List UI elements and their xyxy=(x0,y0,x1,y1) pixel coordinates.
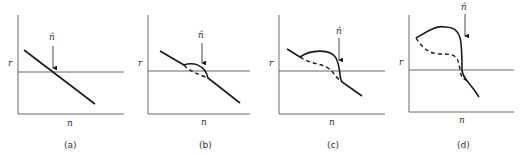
panel-c xyxy=(279,15,385,114)
caption-d: (d) xyxy=(457,140,470,150)
x-label-a: n xyxy=(67,118,73,128)
y-label-b: r xyxy=(138,58,142,68)
x-label-d: n xyxy=(459,115,465,125)
marker-label-a: n̂ xyxy=(49,32,55,42)
x-label-c: n xyxy=(329,117,335,127)
caption-b: (b) xyxy=(199,140,212,150)
y-label-a: r xyxy=(8,58,12,68)
marker-label-c: n̂ xyxy=(336,26,342,36)
marker-label-b: n̂ xyxy=(198,30,204,40)
panel-a xyxy=(18,15,124,114)
panel-d xyxy=(409,14,514,112)
x-label-b: n xyxy=(201,117,207,127)
caption-a: (a) xyxy=(64,140,77,150)
curve-solid xyxy=(24,50,95,104)
marker-label-d: n̂ xyxy=(461,2,467,12)
y-label-c: r xyxy=(269,58,273,68)
caption-c: (c) xyxy=(327,140,339,150)
y-label-d: r xyxy=(399,57,403,67)
diagram-canvas xyxy=(0,0,522,156)
